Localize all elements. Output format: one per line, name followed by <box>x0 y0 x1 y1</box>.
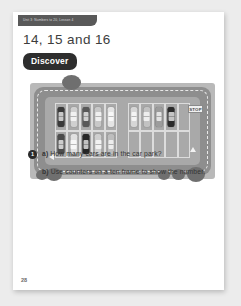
parking-bay <box>105 103 117 131</box>
unit-tab: Unit 3: Numbers to 20, Lesson 4 <box>18 15 97 26</box>
car <box>82 107 89 127</box>
parking-bay <box>178 131 190 159</box>
lane-arrow-up-icon <box>190 147 196 152</box>
question-a-text: How many cars are in the car park? <box>50 150 161 157</box>
car <box>131 107 138 127</box>
parking-bay <box>128 103 140 131</box>
parking-bay <box>140 103 152 131</box>
parking-bay <box>153 103 165 131</box>
parking-bay <box>165 103 177 131</box>
car <box>70 107 77 127</box>
question-b-label: b) <box>42 168 49 175</box>
parking-bay <box>92 103 104 131</box>
screenshot-root: Unit 3: Numbers to 20, Lesson 4 14, 15 a… <box>0 0 241 306</box>
parking-bay <box>80 103 92 131</box>
question-a-label: a) <box>42 150 48 157</box>
page-number: 28 <box>21 277 27 283</box>
bush <box>62 75 81 90</box>
car <box>107 107 114 127</box>
page-title: 14, 15 and 16 <box>23 32 111 47</box>
parking-bay <box>165 131 177 159</box>
question-part-b: b) Use counters on a ten frame to show t… <box>42 168 205 175</box>
car <box>168 107 175 127</box>
question-b-text: Use counters on a ten frame to show the … <box>51 168 206 175</box>
car <box>155 107 162 127</box>
parking-bay <box>55 103 67 131</box>
car <box>58 107 65 127</box>
textbook-page: Unit 3: Numbers to 20, Lesson 4 14, 15 a… <box>13 12 224 290</box>
car <box>143 107 150 127</box>
parking-bay <box>67 103 79 131</box>
question-number-badge: 1 <box>28 150 37 159</box>
stop-sign: STOP <box>188 105 203 113</box>
section-badge-discover: Discover <box>23 53 77 70</box>
question-part-a: a) How many cars are in the car park? <box>42 150 162 157</box>
car <box>95 107 102 127</box>
